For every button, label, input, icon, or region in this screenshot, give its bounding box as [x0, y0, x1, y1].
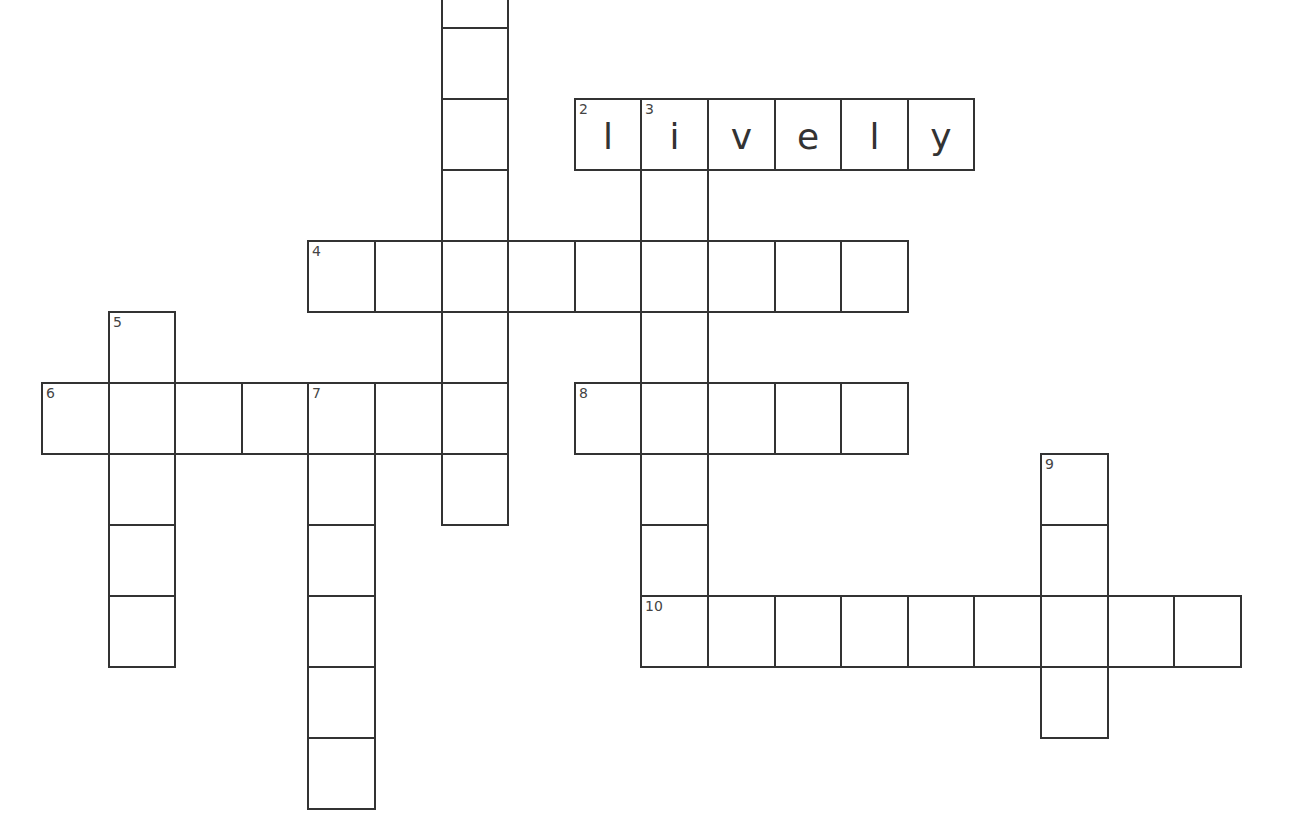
crossword-cell[interactable] [640, 169, 709, 242]
crossword-cell[interactable]: 6 [41, 382, 110, 455]
crossword-cell[interactable] [907, 595, 975, 668]
crossword-cell[interactable] [441, 0, 509, 29]
crossword-cell[interactable] [640, 382, 709, 455]
crossword-cell[interactable]: 7 [307, 382, 376, 455]
crossword-cell[interactable] [441, 169, 509, 242]
crossword-cell[interactable] [307, 737, 376, 810]
crossword-cell[interactable] [441, 98, 509, 171]
crossword-cell[interactable] [108, 453, 176, 526]
cell-letter: y [909, 100, 973, 169]
clue-number: 7 [312, 386, 321, 400]
crossword-cell[interactable] [707, 240, 776, 313]
cell-letter: v [709, 100, 774, 169]
crossword-cell[interactable]: 2l [574, 98, 642, 171]
crossword-cell[interactable] [174, 382, 243, 455]
cell-letter: l [576, 100, 640, 169]
clue-number: 4 [312, 244, 321, 258]
crossword-cell[interactable] [441, 453, 509, 526]
crossword-cell[interactable] [307, 666, 376, 739]
crossword-cell[interactable] [241, 382, 309, 455]
crossword-cell[interactable] [774, 595, 842, 668]
crossword-cell[interactable] [1107, 595, 1175, 668]
crossword-cell[interactable] [774, 240, 842, 313]
crossword-cell[interactable] [441, 311, 509, 384]
crossword-cell[interactable] [108, 382, 176, 455]
crossword-cell[interactable] [307, 595, 376, 668]
crossword-cell[interactable]: 10 [640, 595, 709, 668]
crossword-cell[interactable] [707, 382, 776, 455]
crossword-grid: 2l3ively10456789 [0, 0, 1289, 818]
crossword-cell[interactable] [1040, 595, 1109, 668]
crossword-cell[interactable] [507, 240, 576, 313]
cell-letter: l [842, 100, 907, 169]
crossword-cell[interactable]: 4 [307, 240, 376, 313]
crossword-cell[interactable]: 5 [108, 311, 176, 384]
crossword-cell[interactable] [307, 524, 376, 597]
crossword-cell[interactable] [640, 524, 709, 597]
crossword-cell[interactable] [774, 382, 842, 455]
crossword-cell[interactable]: l [840, 98, 909, 171]
clue-number: 8 [579, 386, 588, 400]
crossword-cell[interactable] [640, 453, 709, 526]
cell-letter: e [776, 100, 840, 169]
cell-letter: i [642, 100, 707, 169]
crossword-cell[interactable] [108, 524, 176, 597]
crossword-cell[interactable] [640, 311, 709, 384]
crossword-cell[interactable] [374, 382, 443, 455]
clue-number: 10 [645, 599, 663, 613]
crossword-cell[interactable] [1040, 524, 1109, 597]
crossword-cell[interactable] [840, 382, 909, 455]
clue-number: 5 [113, 315, 122, 329]
crossword-cell[interactable] [441, 27, 509, 100]
crossword-cell[interactable]: 3i [640, 98, 709, 171]
crossword-cell[interactable] [307, 453, 376, 526]
crossword-cell[interactable]: y [907, 98, 975, 171]
crossword-cell[interactable] [1173, 595, 1242, 668]
crossword-cell[interactable] [441, 382, 509, 455]
crossword-cell[interactable] [574, 240, 642, 313]
clue-number: 6 [46, 386, 55, 400]
crossword-cell[interactable]: v [707, 98, 776, 171]
crossword-cell[interactable] [707, 595, 776, 668]
crossword-cell[interactable] [640, 240, 709, 313]
crossword-cell[interactable] [108, 595, 176, 668]
clue-number: 9 [1045, 457, 1054, 471]
crossword-cell[interactable] [441, 240, 509, 313]
crossword-cell[interactable]: e [774, 98, 842, 171]
crossword-cell[interactable]: 9 [1040, 453, 1109, 526]
crossword-cell[interactable] [1040, 666, 1109, 739]
crossword-cell[interactable]: 8 [574, 382, 642, 455]
crossword-cell[interactable] [973, 595, 1042, 668]
crossword-cell[interactable] [374, 240, 443, 313]
crossword-cell[interactable] [840, 595, 909, 668]
crossword-cell[interactable] [840, 240, 909, 313]
